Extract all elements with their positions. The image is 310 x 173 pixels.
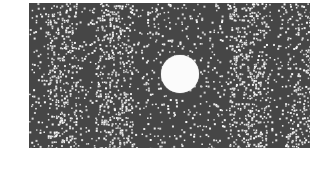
white-circle [161, 55, 199, 93]
image-canvas [0, 0, 310, 173]
